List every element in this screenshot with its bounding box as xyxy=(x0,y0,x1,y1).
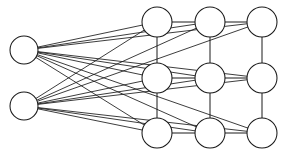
network-diagram xyxy=(0,0,284,157)
connection-edge xyxy=(24,50,210,133)
connection-edge xyxy=(24,106,157,133)
connection-edge xyxy=(24,22,262,106)
connection-edge xyxy=(24,106,210,133)
network-svg xyxy=(0,0,284,157)
connection-edge xyxy=(24,22,210,106)
connection-edge xyxy=(24,50,157,133)
graph-node[interactable] xyxy=(142,7,172,37)
graph-node[interactable] xyxy=(142,63,172,93)
connection-edge xyxy=(24,50,262,133)
graph-node[interactable] xyxy=(195,118,225,148)
graph-node[interactable] xyxy=(10,36,38,64)
connection-edge xyxy=(24,22,210,50)
connection-edge xyxy=(24,22,157,106)
graph-node[interactable] xyxy=(247,118,277,148)
graph-node[interactable] xyxy=(247,63,277,93)
graph-node[interactable] xyxy=(195,63,225,93)
graph-node[interactable] xyxy=(247,7,277,37)
graph-node[interactable] xyxy=(10,92,38,120)
graph-node[interactable] xyxy=(195,7,225,37)
graph-node[interactable] xyxy=(142,118,172,148)
connection-edge xyxy=(24,22,157,50)
